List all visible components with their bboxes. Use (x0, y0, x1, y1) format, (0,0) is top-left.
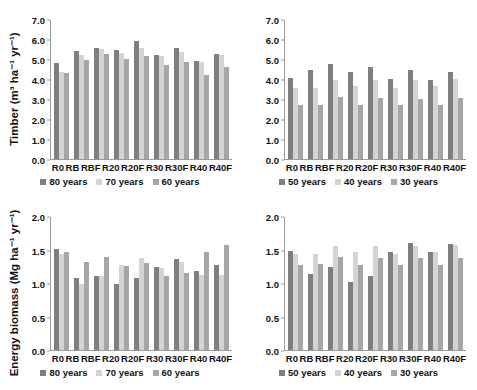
x-tick-label: R20 (336, 162, 353, 173)
bar (84, 262, 89, 350)
bar-group (174, 217, 189, 350)
legend-label: 60 years (162, 367, 200, 378)
bar (204, 252, 209, 350)
bar (184, 62, 189, 159)
y-tick-mark (47, 100, 50, 101)
bar (318, 264, 323, 350)
bar (64, 73, 69, 159)
bar (104, 54, 109, 159)
y-tick-mark (281, 20, 284, 21)
bar (438, 265, 443, 350)
legend-swatch-icon (96, 370, 102, 376)
y-tick-mark (47, 284, 50, 285)
x-tick-label: R30 (380, 162, 397, 173)
x-tick-label: R20 (336, 353, 353, 364)
x-tick-label: R30F (399, 162, 422, 173)
x-tick-label: R0 (286, 162, 298, 173)
x-tick-label: R30F (399, 353, 422, 364)
x-tick-label: R30F (165, 162, 188, 173)
x-tick-label: R30 (380, 353, 397, 364)
bar (64, 252, 69, 350)
y-tick-mark (281, 120, 284, 121)
legend-short-rotation: 50 years40 years30 years (240, 176, 477, 187)
bar (398, 105, 403, 159)
bar-group (214, 20, 229, 159)
x-tick-label: RBF (315, 162, 335, 173)
x-tick-label: R20F (121, 162, 144, 173)
bar (318, 105, 323, 159)
bar (224, 67, 229, 159)
bar-group (214, 217, 229, 350)
legend-label: 50 years (288, 176, 326, 187)
bar-group (328, 217, 343, 350)
x-axis-labels: R0RBRBFR20R20FR30R30FR40R40F (51, 353, 233, 364)
bar-series-group (285, 20, 466, 159)
bar-group (194, 217, 209, 350)
bar (298, 265, 303, 350)
x-tick-label: R0 (52, 162, 64, 173)
legend-label: 50 years (288, 367, 326, 378)
bar-group (154, 20, 169, 159)
x-tick-label: RB (66, 353, 80, 364)
bar-group (74, 20, 89, 159)
y-axis-label-text: Timber (m³ ha⁻¹ yr⁻¹) (7, 32, 21, 145)
x-tick-label: R40F (209, 162, 232, 173)
x-axis-labels: R0RBRBFR20R20FR30R30FR40R40F (285, 353, 467, 364)
x-tick-label: R20F (355, 162, 378, 173)
legend-swatch-icon (335, 179, 341, 185)
y-tick-mark (281, 250, 284, 251)
x-tick-label: R40 (424, 162, 441, 173)
plot-area-energy-long: 2.01.51.00.50.0 (50, 217, 232, 351)
bar-group (94, 20, 109, 159)
bar (358, 265, 363, 350)
x-tick-label: R40F (443, 162, 466, 173)
legend-label: 80 years (49, 176, 87, 187)
y-tick-mark (47, 250, 50, 251)
legend-item: 50 years (279, 176, 326, 187)
y-tick-mark (47, 120, 50, 121)
y-tick-mark (47, 40, 50, 41)
legend-swatch-icon (153, 179, 159, 185)
plot-area-timber-short: 7.06.05.04.03.02.01.00.0 (284, 20, 466, 160)
y-tick-mark (47, 317, 50, 318)
y-tick-mark (281, 40, 284, 41)
x-tick-label: R30 (146, 353, 163, 364)
legend-item: 70 years (96, 367, 143, 378)
x-axis-labels: R0RBRBFR20R20FR30R30FR40R40F (285, 162, 467, 173)
x-tick-label: RB (66, 162, 80, 173)
bar-group (114, 20, 129, 159)
bar-group (408, 217, 423, 350)
legend-item: 50 years (279, 367, 326, 378)
x-tick-label: R30 (146, 162, 163, 173)
bar-group (388, 20, 403, 159)
panel-timber-short-rotation: 7.06.05.04.03.02.01.00.0 R0RBRBFR20R20FR… (240, 2, 477, 195)
y-tick-mark (281, 60, 284, 61)
legend-label: 80 years (49, 367, 87, 378)
bar-group (194, 20, 209, 159)
legend-swatch-icon (279, 179, 285, 185)
bar-group (54, 20, 69, 159)
y-tick-mark (281, 80, 284, 81)
y-tick-mark (281, 100, 284, 101)
y-tick-mark (281, 351, 284, 352)
bar (438, 105, 443, 159)
bar-group (94, 217, 109, 350)
legend-long-rotation: 80 years70 years60 years (0, 367, 240, 378)
legend-item: 60 years (153, 367, 200, 378)
bar-group (134, 217, 149, 350)
plot-area-energy-short: 2.01.51.00.50.0 (284, 217, 466, 351)
bar-group (428, 217, 443, 350)
legend-item: 30 years (391, 176, 438, 187)
bar (378, 98, 383, 159)
y-tick-mark (47, 60, 50, 61)
bar (378, 258, 383, 350)
x-tick-label: R0 (52, 353, 64, 364)
x-tick-label: R20F (121, 353, 144, 364)
legend-swatch-icon (391, 179, 397, 185)
bar-group (448, 20, 463, 159)
legend-long-rotation: 80 years70 years60 years (0, 176, 240, 187)
legend-swatch-icon (335, 370, 341, 376)
bar-group (288, 217, 303, 350)
y-tick-mark (47, 160, 50, 161)
figure-grouped-bar-charts: Timber (m³ ha⁻¹ yr⁻¹) 7.06.05.04.03.02.0… (0, 0, 477, 390)
